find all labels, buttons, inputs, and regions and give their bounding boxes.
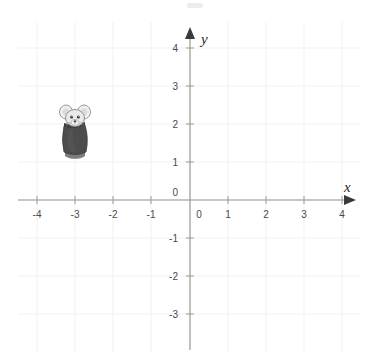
y-tick-label--2: -2 — [169, 271, 178, 282]
y-tick-label-0: 0 — [172, 187, 178, 198]
y-tick-label-2: 2 — [172, 119, 178, 130]
x-tick-label--4: -4 — [33, 209, 42, 220]
x-tick-labels: -4 -3 -2 -1 0 1 2 3 4 — [33, 209, 346, 220]
coordinate-plane-svg: -4 -3 -2 -1 0 1 2 3 4 4 3 2 1 0 -1 -2 -3… — [0, 0, 377, 363]
y-tick-label-3: 3 — [172, 81, 178, 92]
x-tick-label-0: 0 — [196, 209, 202, 220]
y-tick-label--3: -3 — [169, 309, 178, 320]
x-axis-label: x — [343, 179, 351, 195]
mouse-icon — [60, 105, 91, 159]
y-tick-label--1: -1 — [169, 233, 178, 244]
x-tick-label-3: 3 — [301, 209, 307, 220]
y-tick-labels: 4 3 2 1 0 -1 -2 -3 — [169, 43, 178, 320]
x-tick-label-1: 1 — [225, 209, 231, 220]
y-tick-label-1: 1 — [172, 157, 178, 168]
x-tick-label--2: -2 — [109, 209, 118, 220]
y-axis-label: y — [199, 31, 208, 47]
x-tick-label--1: -1 — [147, 209, 156, 220]
y-tick-label-4: 4 — [172, 43, 178, 54]
x-axis — [18, 195, 356, 205]
scan-artifact — [187, 3, 203, 8]
gridlines — [18, 22, 360, 352]
x-tick-label-4: 4 — [339, 209, 345, 220]
x-tick-label--3: -3 — [71, 209, 80, 220]
x-tick-label-2: 2 — [263, 209, 269, 220]
y-axis — [185, 27, 195, 350]
figure-canvas: -4 -3 -2 -1 0 1 2 3 4 4 3 2 1 0 -1 -2 -3… — [0, 0, 377, 363]
